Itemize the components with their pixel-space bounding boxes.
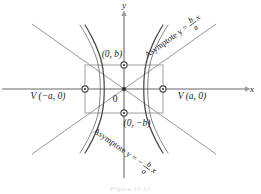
- point-b-marker: [121, 62, 127, 68]
- vertex-left-marker: [82, 86, 88, 92]
- hyperbola-figure: x y 0 (0, b) (0, −b) V (−a, 0) V (a, 0) …: [0, 0, 261, 194]
- x-axis-label: x: [249, 84, 254, 94]
- asymptote-negative-variable: x: [149, 164, 159, 175]
- point-negative-b-label: (0, −b): [124, 118, 151, 129]
- point-b-label: (0, b): [102, 49, 123, 60]
- origin-point: [122, 87, 126, 91]
- origin-label: 0: [113, 94, 118, 104]
- point-negative-b-marker: [121, 110, 127, 116]
- vertex-left-label: V (−a, 0): [31, 91, 66, 102]
- asymptote-positive-label: Asymptote y = b a x: [141, 11, 206, 64]
- svg-text:Asymptote y = −: Asymptote y = −: [92, 125, 145, 167]
- y-axis-label: y: [121, 0, 126, 10]
- asymptote-positive-variable: x: [192, 12, 202, 23]
- asymptote-negative-denominator: a: [140, 167, 148, 177]
- figure-caption: Figure 11 11: [0, 185, 261, 194]
- asymptote-negative-prefix: Asymptote y = −: [92, 125, 145, 167]
- vertex-right-label: V (a, 0): [178, 91, 207, 102]
- asymptote-positive-denominator: a: [191, 22, 199, 32]
- vertex-right-marker: [160, 86, 166, 92]
